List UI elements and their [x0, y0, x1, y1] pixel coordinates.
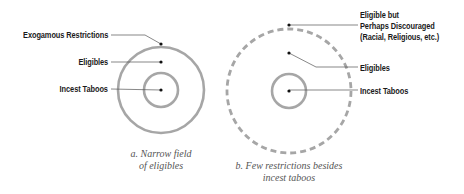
label-racial-religious: (Racial, Religious, etc.)	[360, 31, 439, 42]
label-perhaps-discouraged: Perhaps Discouraged	[360, 20, 435, 31]
label-eligibles-a: Eligibles	[78, 56, 108, 67]
diagram-a-graphics	[111, 35, 204, 133]
dot-eligibles	[287, 51, 290, 54]
dot-exogamous	[159, 42, 162, 45]
label-incest-taboos-b: Incest Taboos	[360, 85, 408, 96]
caption-a-line1: a. Narrow field	[111, 148, 211, 160]
label-incest-taboos-a: Incest Taboos	[60, 83, 108, 94]
caption-b: b. Few restrictions besides incest taboo…	[229, 160, 349, 184]
caption-b-line2: incest taboos	[229, 172, 349, 184]
marriage-eligibility-diagram: Exogamous Restrictions Eligibles Incest …	[0, 0, 464, 194]
dot-incest	[287, 89, 290, 92]
leader-line-exogamous	[111, 35, 161, 44]
label-eligible-but: Eligible but	[360, 9, 399, 20]
diagram-b-graphics	[227, 23, 358, 153]
dot-discouraged	[287, 23, 290, 26]
caption-a-line2: of eligibles	[111, 160, 211, 172]
caption-a: a. Narrow field of eligibles	[111, 148, 211, 172]
dot-eligibles	[159, 60, 162, 63]
label-eligibles-b: Eligibles	[360, 62, 390, 73]
dot-incest	[159, 88, 162, 91]
leader-line-eligibles	[289, 53, 358, 67]
caption-b-line1: b. Few restrictions besides	[229, 160, 349, 172]
label-exogamous-restrictions: Exogamous Restrictions	[23, 29, 108, 40]
